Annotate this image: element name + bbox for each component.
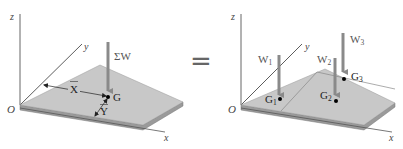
x-axis-label: x [163, 132, 169, 143]
diagram-canvas: z y x O X Y ΣW G = z y [0, 0, 403, 149]
centroid-point-2 [334, 99, 338, 103]
y-bar-label: Y [100, 105, 108, 117]
centroid-point-3 [342, 77, 346, 81]
weight-label-2: W2 [317, 53, 331, 67]
z-axis-label: z [9, 11, 14, 22]
centroid-label: G [113, 91, 121, 103]
centroid-point [106, 95, 110, 99]
resultant-weight-label: ΣW [114, 50, 131, 62]
centroid-label-3: G3 [351, 70, 363, 84]
weight-label-1: W1 [258, 53, 272, 67]
z-axis-label: z [230, 11, 235, 22]
origin-label: O [228, 103, 236, 115]
right-figure: z y x O W1 G1 W2 G2 W3 G3 [228, 11, 395, 143]
centroid-point-1 [278, 97, 282, 101]
x-axis-label: x [388, 132, 394, 143]
y-axis-label: y [83, 41, 89, 52]
origin-label: O [7, 103, 15, 115]
weight-label-3: W3 [350, 33, 364, 47]
y-axis-label: y [304, 41, 310, 52]
left-figure: z y x O X Y ΣW G [7, 11, 183, 143]
x-bar-label: X [70, 83, 78, 95]
equals-sign: = [190, 46, 212, 76]
